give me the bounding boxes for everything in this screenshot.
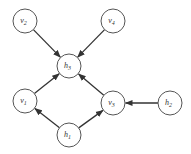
node-h2: h2 <box>158 91 182 115</box>
node-h1: h1 <box>57 123 81 147</box>
nodes-layer: v2v4h3v1v3h2h1 <box>13 9 182 147</box>
edge-v4-to-h3 <box>78 30 105 57</box>
edge-v1-to-h3 <box>34 74 59 94</box>
graph-diagram: v2v4h3v1v3h2h1 <box>0 0 191 154</box>
edge-h1-to-v3 <box>79 110 103 128</box>
node-v1: v1 <box>13 89 37 113</box>
node-h3: h3 <box>57 54 81 78</box>
edges-layer <box>33 30 158 128</box>
edge-v2-to-h3 <box>33 30 60 57</box>
node-v2: v2 <box>13 9 37 33</box>
edge-v3-to-h3 <box>79 74 104 95</box>
node-v3: v3 <box>101 91 125 115</box>
edge-h1-to-v1 <box>35 109 60 128</box>
node-v4: v4 <box>101 9 125 33</box>
